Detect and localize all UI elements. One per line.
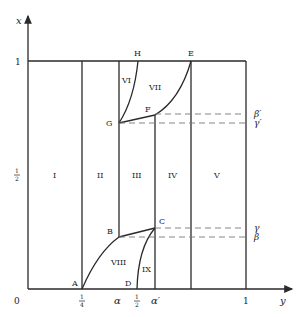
- region-III-label: III: [132, 171, 141, 180]
- point-B-label: B: [107, 227, 113, 236]
- point-G-label: G: [106, 119, 112, 128]
- origin-label: 0: [14, 296, 20, 306]
- x-tick-quarter-num: 1: [80, 293, 84, 300]
- phase-diagram: x y 0 1 1 2 1 4 α 1 2 α′ 1 H E F G B C A…: [0, 0, 301, 317]
- point-C-label: C: [159, 217, 165, 226]
- region-VII-label: VII: [148, 83, 161, 92]
- point-A-label: A: [71, 279, 78, 288]
- region-IX-label: IX: [142, 265, 151, 274]
- region-II-label: II: [97, 171, 103, 180]
- curve-G-H: [119, 61, 138, 123]
- beta-label: β: [253, 232, 259, 242]
- x-tick-alpha: α: [114, 295, 121, 306]
- region-I-label: I: [53, 171, 56, 180]
- x-tick-half-num: 1: [135, 293, 139, 300]
- point-F-label: F: [145, 105, 151, 114]
- point-H-label: H: [134, 49, 141, 58]
- region-V-label: V: [213, 171, 220, 180]
- point-D-label: D: [125, 279, 131, 288]
- x-tick-half-den: 2: [135, 301, 139, 308]
- x-axis-label: y: [279, 295, 286, 306]
- y-tick-half-num: 1: [15, 167, 19, 174]
- x-tick-alpha-prime: α′: [151, 295, 161, 306]
- gamma-prime-label: γ′: [254, 118, 261, 128]
- region-VIII-label: VIII: [110, 258, 126, 267]
- y-axis-label: x: [16, 15, 22, 26]
- region-VI-label: VI: [121, 76, 131, 85]
- x-tick-one: 1: [243, 296, 249, 306]
- point-E-label: E: [188, 49, 194, 58]
- y-tick-half-den: 2: [15, 175, 19, 182]
- y-tick-one: 1: [15, 57, 21, 67]
- region-IV-label: IV: [168, 171, 177, 180]
- x-tick-quarter-den: 4: [80, 301, 84, 308]
- line-G-F: [119, 115, 155, 123]
